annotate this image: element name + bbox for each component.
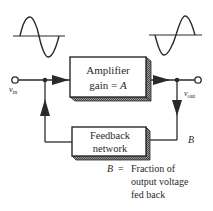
output-arrow-icon bbox=[153, 75, 170, 85]
gain-variable: A bbox=[119, 79, 127, 91]
amplifier-side-shadow bbox=[146, 57, 151, 101]
feedback-definition: B = Fraction of output voltage fed back bbox=[107, 163, 189, 200]
output-label-sub: out bbox=[188, 93, 196, 99]
definition-equals: = bbox=[118, 163, 124, 174]
feedback-fraction-label: B bbox=[188, 134, 194, 145]
input-terminal bbox=[12, 77, 18, 83]
definition-line-2: output voltage bbox=[131, 176, 189, 187]
input-path: vin bbox=[9, 75, 70, 95]
amplifier-label: Amplifier bbox=[86, 64, 130, 76]
definition-line-3: fed back bbox=[131, 189, 165, 200]
amplifier-box bbox=[70, 57, 146, 97]
input-waveform bbox=[13, 17, 65, 57]
definition-line-1: Fraction of bbox=[131, 163, 176, 174]
input-label-sub: in bbox=[13, 89, 18, 95]
definition-variable: B bbox=[107, 163, 113, 174]
output-waveform bbox=[149, 16, 202, 55]
feedback-network-block: Feedback network bbox=[72, 127, 150, 160]
input-voltage-label: vin bbox=[9, 85, 17, 95]
feedback-return-path bbox=[40, 80, 72, 142]
output-path: vout bbox=[151, 75, 201, 99]
feedback-amplifier-diagram: Amplifier gain = A Feedback network vin … bbox=[0, 0, 213, 211]
gain-prefix: gain = bbox=[89, 79, 120, 91]
down-arrow-icon bbox=[172, 100, 182, 116]
output-voltage-label: vout bbox=[184, 89, 196, 99]
amplifier-block: Amplifier gain = A bbox=[70, 57, 151, 101]
amplifier-gain-label: gain = A bbox=[89, 79, 127, 91]
network-label: network bbox=[93, 143, 128, 154]
up-arrow-icon bbox=[40, 99, 50, 116]
input-sine-curve bbox=[20, 17, 59, 57]
feedback-label: Feedback bbox=[90, 130, 131, 141]
output-terminal bbox=[195, 77, 201, 83]
input-arrow-icon bbox=[52, 75, 69, 85]
